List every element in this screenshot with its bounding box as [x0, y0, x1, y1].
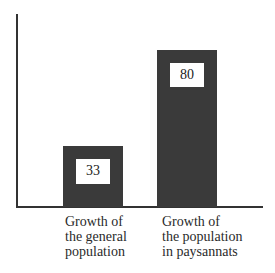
category-label-paysannats-population: Growth of the population in paysannats [162, 214, 243, 259]
value-label-general-population: 33 [76, 159, 110, 184]
x-axis [16, 206, 263, 208]
value-label-paysannats-population: 80 [170, 63, 204, 87]
y-axis [16, 14, 18, 207]
category-label-general-population: Growth of the general population [65, 214, 127, 259]
